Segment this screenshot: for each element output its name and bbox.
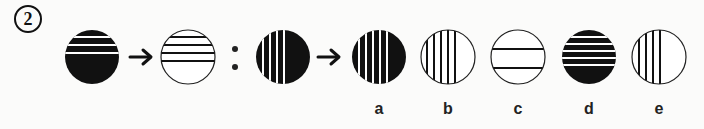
option-e-label[interactable]: e bbox=[644, 100, 674, 118]
option-d-label[interactable]: d bbox=[574, 100, 604, 118]
option-b-label[interactable]: b bbox=[433, 100, 463, 118]
figure-2-circle bbox=[155, 30, 221, 84]
option-a-label[interactable]: a bbox=[364, 100, 394, 118]
option-c-circle[interactable] bbox=[488, 30, 548, 84]
arrow-right-icon bbox=[318, 50, 339, 64]
ratio-separator-icon bbox=[232, 46, 238, 70]
arrow-right-icon bbox=[130, 50, 151, 64]
figure-3-circle bbox=[256, 25, 310, 89]
option-c-label[interactable]: c bbox=[503, 100, 533, 118]
option-e-circle[interactable] bbox=[632, 25, 686, 89]
option-b-circle[interactable] bbox=[421, 25, 475, 89]
analogy-question: 2 bbox=[0, 0, 704, 129]
option-d-circle[interactable] bbox=[558, 30, 620, 84]
figure-1-circle bbox=[60, 30, 124, 84]
option-a-circle[interactable] bbox=[352, 25, 406, 89]
